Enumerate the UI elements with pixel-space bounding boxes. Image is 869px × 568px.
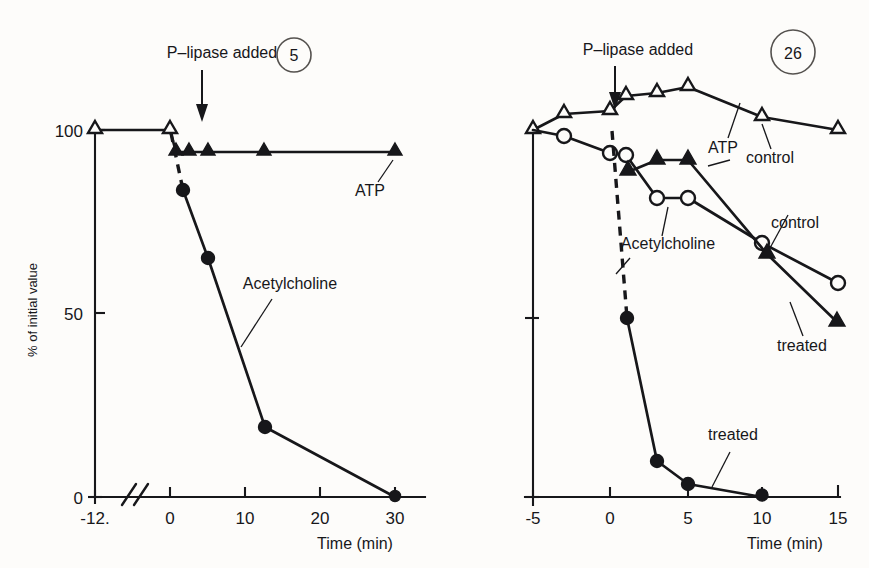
acetylcholine-line	[183, 190, 395, 497]
chart-svg-5: 100 50 0 -12. 0 10 20 30 Time (min) % of…	[0, 0, 440, 568]
chart-panel-26: -5 0 5 10 15 Time (min) P–lipase added 2…	[440, 0, 869, 568]
acetylcholine-treated-line	[627, 318, 762, 497]
baseline-marker-open-triangle	[163, 121, 177, 133]
acetylcholine-line-dashed	[171, 133, 183, 190]
x-tick-label-neg12: -12.	[80, 509, 109, 528]
acetylcholine-control-marker	[557, 129, 571, 143]
acetylcholine-control-marker	[650, 191, 664, 205]
atp-control-marker	[681, 78, 695, 90]
x-tick-label-15: 15	[829, 509, 848, 528]
atp-label-leader-upper	[728, 103, 740, 138]
x-axis-break-mark-2	[134, 484, 148, 505]
atp-treated-marker	[649, 150, 665, 164]
atp-treated-marker	[829, 312, 845, 326]
figure-root: 100 50 0 -12. 0 10 20 30 Time (min) % of…	[0, 0, 869, 568]
acetylcholine-treated-marker	[621, 312, 634, 325]
control-upper-label: control	[746, 149, 794, 166]
x-tick-label-20: 20	[311, 509, 330, 528]
y-tick-label-100: 100	[55, 122, 83, 141]
figure-number-label: 26	[784, 45, 802, 62]
acetylcholine-label-leader	[241, 299, 272, 347]
y-tick-label-0: 0	[74, 489, 83, 508]
acetylcholine-treated-marker	[682, 478, 695, 491]
treated-lower-leader	[712, 452, 730, 487]
atp-control-marker	[650, 84, 664, 96]
p-lipase-annotation-label: P–lipase added	[167, 44, 277, 61]
x-tick-label-0: 0	[165, 509, 174, 528]
baseline-marker-open-triangle	[88, 121, 102, 133]
x-tick-label-0: 0	[605, 509, 614, 528]
acetylcholine-control-marker	[831, 276, 845, 290]
x-tick-label-5: 5	[683, 509, 692, 528]
atp-control-marker	[557, 105, 571, 117]
atp-control-line	[533, 87, 838, 130]
p-lipase-arrow-head	[196, 104, 208, 122]
x-axis-title: Time (min)	[747, 535, 823, 552]
treated-upper-label: treated	[777, 337, 827, 354]
acetylcholine-label-leader	[662, 207, 668, 236]
chart-panel-5: 100 50 0 -12. 0 10 20 30 Time (min) % of…	[0, 0, 440, 568]
figure-number-label: 5	[290, 47, 299, 64]
chart-svg-26: -5 0 5 10 15 Time (min) P–lipase added 2…	[440, 0, 869, 568]
atp-control-marker	[831, 121, 845, 133]
p-lipase-annotation-label: P–lipase added	[583, 41, 693, 58]
control-upper-leader	[762, 124, 771, 149]
acetylcholine-treated-marker	[651, 455, 664, 468]
acetylcholine-series-label: Acetylcholine	[243, 275, 337, 292]
treated-lower-label: treated	[708, 426, 758, 443]
atp-marker	[201, 143, 215, 155]
atp-treated-marker	[680, 150, 696, 164]
acetylcholine-treated-marker	[756, 489, 768, 501]
y-axis-title: % of initial value	[25, 263, 40, 357]
control-lower-label: control	[771, 214, 819, 231]
acetylcholine-control-marker	[619, 148, 633, 162]
atp-label-leader-lower	[708, 160, 730, 166]
acetylcholine-marker	[202, 252, 215, 265]
atp-control-marker	[619, 87, 633, 99]
atp-marker	[182, 143, 196, 155]
acetylcholine-marker	[177, 184, 190, 197]
x-tick-label-30: 30	[386, 509, 405, 528]
acetylcholine-series-label: Acetylcholine	[621, 235, 715, 252]
treated-upper-leader	[790, 302, 803, 336]
x-axis-title: Time (min)	[317, 535, 393, 552]
acetylcholine-control-marker	[681, 191, 695, 205]
atp-series-label: ATP	[355, 182, 385, 199]
acetylcholine-marker	[259, 421, 272, 434]
x-tick-label-10: 10	[753, 509, 772, 528]
atp-marker	[257, 143, 271, 155]
x-axis-break-mark-1	[122, 484, 136, 505]
atp-series-label: ATP	[708, 139, 738, 156]
acetylcholine-marker	[390, 491, 401, 502]
atp-label-leader	[378, 160, 393, 182]
y-tick-label-50: 50	[64, 305, 83, 324]
x-tick-label-10: 10	[236, 509, 255, 528]
atp-marker	[388, 143, 402, 155]
atp-treated-marker	[620, 161, 636, 175]
atp-line	[170, 130, 395, 152]
x-tick-label-neg5: -5	[525, 509, 540, 528]
